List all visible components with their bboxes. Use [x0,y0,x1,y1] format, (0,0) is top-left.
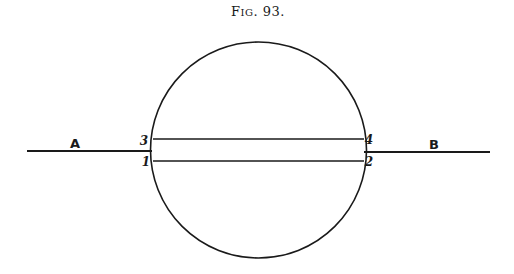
circle-conductor [151,42,367,258]
label-b: B [429,137,439,152]
label-4: 4 [365,133,373,147]
label-3: 3 [140,134,148,148]
label-1: 1 [142,155,150,169]
figure-93-diagram: FIG. 93. A B 3 1 4 2 [0,0,514,274]
label-a: A [70,136,80,151]
figure-caption: FIG. 93. [231,4,285,19]
label-2: 2 [364,155,373,169]
